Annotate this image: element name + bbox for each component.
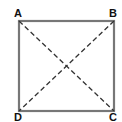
vertex-label-b: B — [109, 7, 117, 19]
vertex-label-d: D — [14, 111, 22, 122]
vertex-label-a: A — [14, 7, 22, 19]
square-diagram: A B C D — [0, 0, 122, 122]
diagram-svg: A B C D — [0, 0, 122, 122]
vertex-label-c: C — [109, 111, 117, 122]
